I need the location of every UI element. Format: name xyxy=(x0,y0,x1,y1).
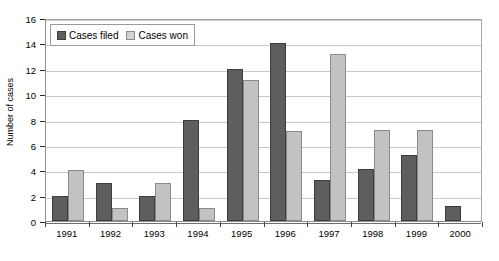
light-square-icon xyxy=(126,31,135,40)
bar-cases-filed xyxy=(183,120,199,222)
legend-entry-cases-filed: Cases filed xyxy=(57,30,118,41)
bar-cases-won xyxy=(330,54,346,221)
bar-group xyxy=(396,20,440,221)
bar-cases-won xyxy=(417,130,433,221)
x-axis-tick-label: 1993 xyxy=(144,228,165,239)
x-axis-tick-label: 1994 xyxy=(187,228,208,239)
bar-cases-won xyxy=(286,131,302,221)
chart-legend: Cases filed Cases won xyxy=(50,24,195,46)
bar-group xyxy=(133,20,177,221)
bar-groups xyxy=(46,20,481,221)
bar-group xyxy=(352,20,396,221)
y-axis-tick-label: 16 xyxy=(25,14,36,25)
x-axis-tick-label: 1991 xyxy=(56,228,77,239)
bar-cases-won xyxy=(199,208,215,221)
x-axis-tick-label: 1997 xyxy=(318,228,339,239)
bar-cases-filed xyxy=(96,183,112,221)
bar-cases-filed xyxy=(52,196,68,221)
bar-group xyxy=(221,20,265,221)
bar-group xyxy=(46,20,90,221)
y-axis-tick-label: 2 xyxy=(31,191,36,202)
bar-group xyxy=(265,20,309,221)
x-axis-tick-marks xyxy=(45,222,482,227)
y-axis-tick-label: 10 xyxy=(25,90,36,101)
bar-cases-filed xyxy=(270,43,286,221)
y-axis-title: Number of cases xyxy=(2,0,18,225)
bar-group xyxy=(308,20,352,221)
y-axis-tick-label: 6 xyxy=(31,140,36,151)
bar-group xyxy=(177,20,221,221)
y-axis-tick-label: 8 xyxy=(31,115,36,126)
y-axis-tick-label: 0 xyxy=(31,217,36,228)
bar-cases-filed xyxy=(445,206,461,221)
x-axis-tick-label: 1996 xyxy=(275,228,296,239)
x-axis-tick-label: 1992 xyxy=(100,228,121,239)
bar-cases-filed xyxy=(314,180,330,221)
bar-cases-won xyxy=(243,80,259,221)
y-axis-tick-label: 4 xyxy=(31,166,36,177)
bar-cases-won xyxy=(112,208,128,221)
bar-cases-won xyxy=(68,170,84,221)
bar-cases-filed xyxy=(139,196,155,221)
x-axis-tick-label: 1999 xyxy=(406,228,427,239)
dark-square-icon xyxy=(57,31,66,40)
legend-label-cases-filed: Cases filed xyxy=(69,30,118,41)
x-axis-tick-label: 1998 xyxy=(362,228,383,239)
bar-chart: Number of cases 0246810121416 1991199219… xyxy=(0,0,499,261)
x-axis-tick-label: 1995 xyxy=(231,228,252,239)
y-axis-tick-label: 12 xyxy=(25,64,36,75)
y-axis-tick-label: 14 xyxy=(25,39,36,50)
x-axis-tick-labels: 1991199219931994199519961997199819992000 xyxy=(45,228,482,244)
x-axis-tick-label: 2000 xyxy=(450,228,471,239)
legend-entry-cases-won: Cases won xyxy=(126,30,187,41)
y-axis-title-label: Number of cases xyxy=(5,78,15,146)
bar-cases-filed xyxy=(358,169,374,221)
bar-group xyxy=(90,20,134,221)
bar-cases-filed xyxy=(227,69,243,221)
bar-cases-filed xyxy=(401,155,417,221)
y-axis-tick-labels: 0246810121416 xyxy=(18,19,40,222)
legend-label-cases-won: Cases won xyxy=(138,30,187,41)
plot-area xyxy=(45,19,482,222)
bar-group xyxy=(439,20,483,221)
bar-cases-won xyxy=(155,183,171,221)
bar-cases-won xyxy=(374,130,390,221)
